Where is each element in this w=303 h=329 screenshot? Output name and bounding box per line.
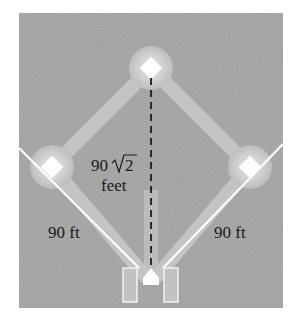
left-batters-box bbox=[123, 268, 137, 302]
diagonal-value: 90 bbox=[91, 156, 108, 175]
right-side-label: 90 ft bbox=[214, 223, 246, 242]
baseball-diamond-diagram: 90 2 feet 90 ft 90 ft bbox=[0, 0, 303, 329]
diagonal-radicand: 2 bbox=[125, 156, 134, 175]
right-batters-box bbox=[164, 268, 178, 302]
diagonal-unit: feet bbox=[101, 176, 127, 195]
left-side-label: 90 ft bbox=[48, 223, 80, 242]
